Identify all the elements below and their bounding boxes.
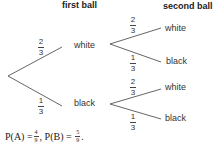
- prob-first-black: 13: [38, 97, 44, 116]
- label-bb: black: [165, 113, 186, 123]
- prob-first-white: 23: [38, 38, 44, 57]
- label-bw: white: [165, 82, 186, 92]
- label-first-white: white: [74, 40, 95, 50]
- label-first-black: black: [74, 98, 95, 108]
- pa-fraction: 49: [34, 129, 39, 143]
- header-second-ball: second ball: [163, 1, 213, 11]
- pb-fraction: 59: [75, 129, 80, 143]
- prob-bb: 13: [130, 113, 136, 132]
- prob-ww: 23: [130, 16, 136, 35]
- probability-formula: P(A) = 49 , P(B) = 59 .: [5, 129, 84, 143]
- label-ww: white: [165, 23, 186, 33]
- prob-wb: 13: [130, 54, 136, 73]
- header-first-ball: first ball: [62, 0, 97, 10]
- prob-bw: 23: [130, 78, 136, 97]
- label-wb: black: [166, 56, 187, 66]
